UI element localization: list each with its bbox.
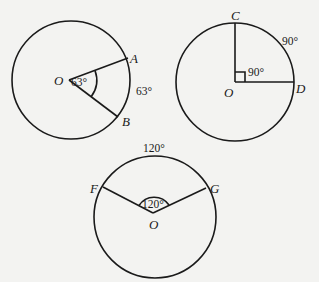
center-label: O — [149, 217, 159, 232]
point-label-a: A — [129, 51, 138, 66]
diagram-circle-90: C D O 90° 90° — [176, 8, 306, 141]
arc-measure-label: 90° — [282, 35, 299, 47]
point-label-g: G — [210, 181, 220, 196]
central-angle-label: 90° — [248, 66, 265, 78]
central-angle-label: 63° — [71, 76, 88, 88]
central-angle-label: 120° — [142, 198, 164, 210]
point-label-d: D — [295, 81, 306, 96]
arc-measure-label: 120° — [143, 142, 165, 154]
arc-measure-label: 63° — [136, 85, 153, 97]
central-angle-diagrams: O 63° A B 63° C D O 90° 90° F G O 120° 1… — [0, 0, 319, 282]
point-label-c: C — [231, 8, 240, 23]
center-label: O — [224, 85, 234, 100]
point-label-b: B — [122, 114, 130, 129]
center-label: O — [54, 73, 64, 88]
diagram-circle-120: F G O 120° 120° — [89, 142, 220, 278]
angle-arc-marker — [91, 71, 97, 98]
diagram-circle-63: O 63° A B 63° — [12, 21, 153, 139]
right-angle-marker — [235, 72, 245, 82]
point-label-f: F — [89, 181, 99, 196]
